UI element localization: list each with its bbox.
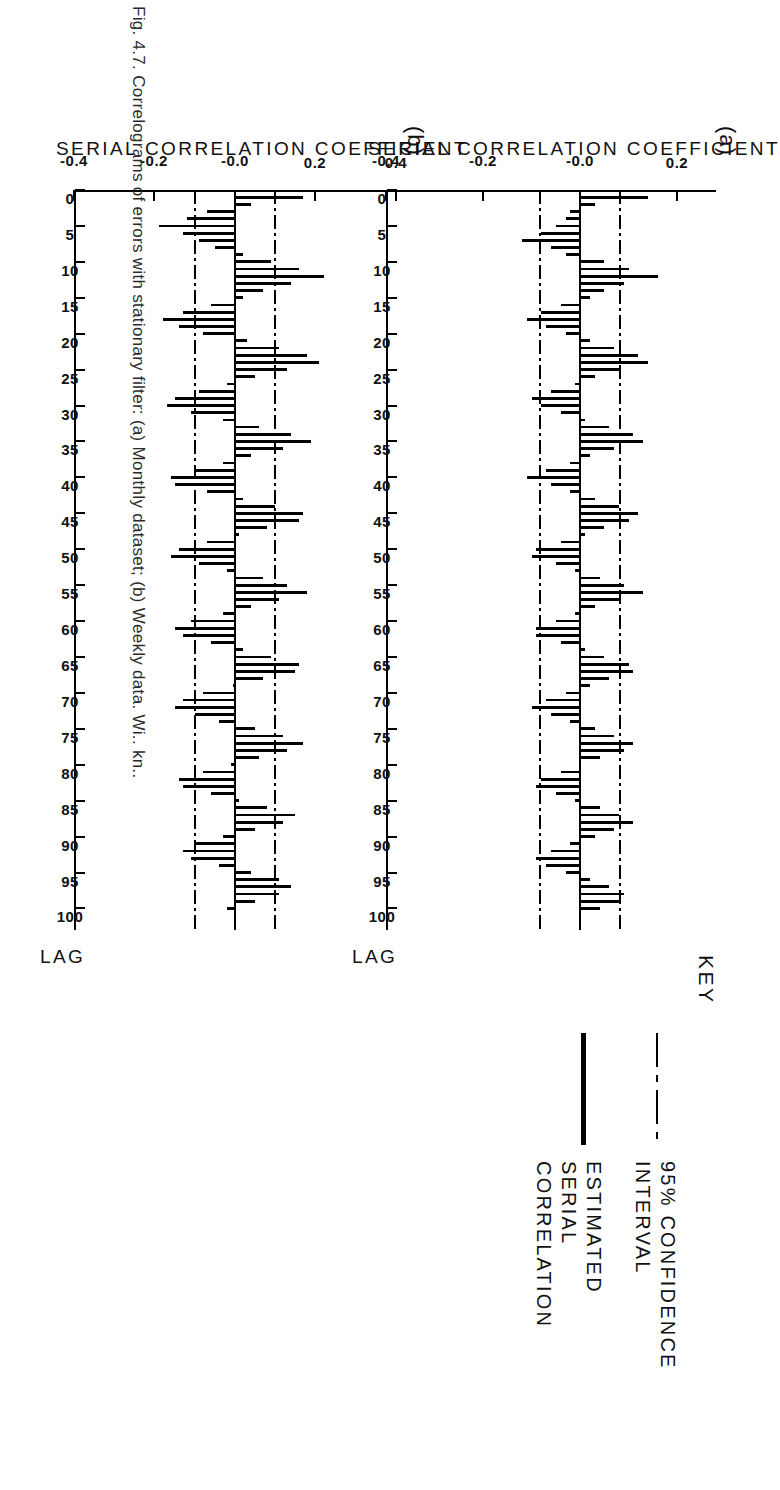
- bar: [235, 268, 299, 271]
- x-tick-label: 75: [61, 729, 79, 746]
- bar: [580, 670, 633, 673]
- bar: [580, 268, 629, 271]
- bar: [235, 900, 255, 903]
- legend-entry-estimated-serial-correlation: ESTIMATED SERIAL CORRELATION: [548, 955, 608, 1385]
- x-tick-label: 5: [66, 226, 75, 243]
- bar: [561, 541, 580, 544]
- bar: [532, 706, 581, 709]
- bar: [580, 368, 619, 371]
- bar: [199, 562, 235, 565]
- bar: [175, 627, 235, 630]
- solid-line-icon: [581, 1033, 586, 1145]
- x-tick-label: 55: [61, 585, 79, 602]
- bar: [580, 289, 604, 292]
- bar: [235, 203, 251, 206]
- bar: [235, 799, 239, 802]
- bar: [235, 354, 307, 357]
- bar: [235, 756, 259, 759]
- legend-title: KEY: [694, 955, 718, 1005]
- bar: [536, 548, 580, 551]
- bar: [159, 225, 235, 228]
- x-tick-label: 35: [61, 441, 79, 458]
- bar: [235, 584, 287, 587]
- bar: [211, 792, 235, 795]
- legend-entry-estimated-label: ESTIMATED SERIAL CORRELATION: [531, 1161, 606, 1385]
- bar: [556, 620, 580, 623]
- bar: [235, 196, 303, 199]
- bar: [183, 311, 235, 314]
- bar: [522, 239, 580, 242]
- bar: [570, 490, 580, 493]
- bar: [235, 361, 320, 364]
- bar: [580, 591, 643, 594]
- bar: [546, 469, 580, 472]
- bar: [580, 519, 629, 522]
- bar: [199, 239, 235, 242]
- bar: [580, 203, 595, 206]
- x-tick-label: 20: [61, 334, 79, 351]
- x-tick: [75, 225, 85, 227]
- bar: [215, 246, 235, 249]
- bar: [561, 641, 580, 644]
- plot-area-a: 0510152025303540455055606570758085909510…: [386, 190, 716, 930]
- bar: [235, 519, 299, 522]
- bar: [580, 878, 590, 881]
- bar: [536, 627, 580, 630]
- bar: [580, 533, 585, 536]
- bar: [183, 232, 235, 235]
- bar: [195, 469, 235, 472]
- bar: [235, 871, 251, 874]
- bar: [566, 332, 581, 335]
- bar: [235, 814, 295, 817]
- bar: [191, 620, 235, 623]
- y-tick: [73, 190, 75, 201]
- bar: [556, 562, 580, 565]
- bar: [580, 347, 614, 350]
- y-tick: [482, 190, 484, 201]
- x-axis-title-b: LAG: [40, 946, 85, 968]
- bar: [235, 727, 255, 730]
- bar: [580, 835, 595, 838]
- bar: [183, 699, 235, 702]
- bar: [551, 483, 580, 486]
- bar: [570, 210, 580, 213]
- bar: [235, 821, 283, 824]
- bar: [532, 397, 581, 400]
- bar: [580, 196, 648, 199]
- bar: [561, 771, 580, 774]
- bar: [167, 404, 235, 407]
- bar: [235, 347, 279, 350]
- bar: [235, 426, 259, 429]
- bar: [235, 296, 243, 299]
- bar: [191, 857, 235, 860]
- bar: [183, 850, 235, 853]
- bar: [179, 548, 235, 551]
- x-tick-label: 70: [61, 693, 79, 710]
- bar: [223, 835, 235, 838]
- bar: [580, 577, 599, 580]
- x-tick: [75, 189, 85, 191]
- bar: [580, 648, 585, 651]
- bar: [235, 591, 307, 594]
- bar: [536, 785, 580, 788]
- bar: [541, 311, 580, 314]
- bar: [580, 749, 624, 752]
- y-axis-line: [74, 190, 404, 192]
- bar: [211, 304, 235, 307]
- x-tick-label: 50: [61, 549, 79, 566]
- bar: [580, 498, 595, 501]
- zero-reference-line: [579, 190, 581, 930]
- bar: [235, 656, 271, 659]
- legend-label-line2: CORRELATION: [531, 1161, 556, 1385]
- bar: [580, 419, 585, 422]
- bar: [235, 533, 239, 536]
- y-axis-line: [386, 190, 716, 192]
- bar: [235, 806, 267, 809]
- bar: [235, 735, 283, 738]
- bar: [570, 842, 580, 845]
- dash-dot-line-icon: [654, 1033, 658, 1145]
- bar: [580, 440, 643, 443]
- bar: [203, 771, 235, 774]
- bar: [580, 684, 590, 687]
- bar: [163, 318, 235, 321]
